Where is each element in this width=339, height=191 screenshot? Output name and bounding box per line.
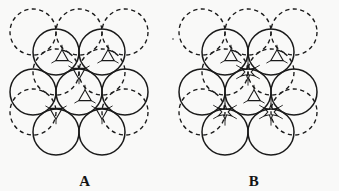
tetrahedral-hole-marker xyxy=(74,85,95,103)
diagram-panel-b: B xyxy=(169,0,339,191)
figure-root: A B xyxy=(0,0,339,191)
panel-label-a: A xyxy=(0,173,170,189)
front-layer-sphere xyxy=(248,109,294,155)
scan-speck xyxy=(172,38,174,40)
lattice-drawing-b xyxy=(169,0,339,170)
diagram-panel-a: A xyxy=(0,0,170,191)
front-layer-sphere xyxy=(79,109,125,155)
lattice-drawing-a xyxy=(0,0,170,170)
panel-label-b: B xyxy=(169,173,339,189)
tetrahedral-hole-marker xyxy=(243,85,264,103)
